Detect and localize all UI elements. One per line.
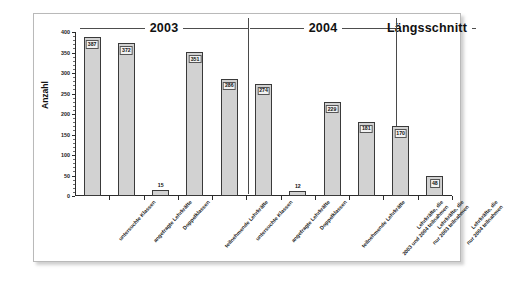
bar-value-label: 229 (326, 105, 339, 113)
bar: 181 (358, 122, 375, 196)
y-tick-label: 250 (61, 91, 70, 97)
y-minor-tick (73, 61, 75, 62)
y-tick-mark (72, 53, 75, 54)
y-minor-tick (73, 126, 75, 127)
x-tick-mark (452, 196, 453, 200)
plot-area: 050100150200250300350400 387372153512862… (75, 32, 452, 196)
bar-value-label: 12 (295, 184, 301, 189)
y-minor-tick (73, 48, 75, 49)
bar-value-label: 15 (158, 183, 164, 188)
y-minor-tick (73, 163, 75, 164)
group-rule-right (183, 28, 248, 29)
category-label-line: teilnehmende Lehrkräfte (360, 199, 406, 249)
y-tick-mark (72, 114, 75, 115)
y-tick-label: 350 (61, 50, 70, 56)
y-tick-label: 200 (61, 111, 70, 117)
y-tick-mark (72, 73, 75, 74)
bar-value-label: 48 (430, 179, 440, 187)
x-axis-category-labels: untersuchte Klassenangefragte Lehrkräfte… (75, 196, 452, 262)
bar: 372 (118, 43, 135, 196)
bar-value-label: 170 (394, 129, 407, 137)
y-minor-tick (73, 151, 75, 152)
y-tick-mark (72, 155, 75, 156)
category-label-line: teilnehmende Lehrkräfte (223, 199, 269, 249)
group-rule-left (250, 28, 304, 29)
bar-value-label: 351 (189, 55, 202, 63)
y-tick-mark (72, 135, 75, 136)
category-label-line: untersuchte Klassen (117, 199, 156, 242)
bar-value-label: 372 (120, 46, 133, 54)
y-tick-label: 300 (61, 70, 70, 76)
y-minor-tick (73, 44, 75, 45)
y-tick-label: 100 (61, 152, 70, 158)
group-rule-right (472, 28, 476, 29)
y-tick-label: 150 (61, 132, 70, 138)
group-rule-left (80, 28, 145, 29)
y-tick-label: 400 (61, 29, 70, 35)
y-minor-tick (73, 98, 75, 99)
y-minor-tick (73, 77, 75, 78)
chart-figure: 2003 2004 Längsschnitt Anzahl 0501001502… (33, 13, 461, 262)
y-minor-tick (73, 184, 75, 185)
y-minor-tick (73, 192, 75, 193)
bar: 274 (255, 84, 272, 196)
y-minor-tick (73, 143, 75, 144)
y-minor-tick (73, 118, 75, 119)
y-minor-tick (73, 180, 75, 181)
y-minor-tick (73, 147, 75, 148)
bar-value-label: 387 (86, 40, 99, 48)
y-minor-tick (73, 69, 75, 70)
y-tick-mark (72, 176, 75, 177)
y-minor-tick (73, 122, 75, 123)
y-minor-tick (73, 159, 75, 160)
y-tick-mark (72, 94, 75, 95)
y-minor-tick (73, 188, 75, 189)
y-minor-tick (73, 85, 75, 86)
category-label: untersuchte Klassen (117, 199, 157, 243)
bar-value-label: 286 (223, 82, 236, 90)
bar-value-label: 274 (257, 87, 270, 95)
y-tick-label: 50 (64, 173, 70, 179)
y-minor-tick (73, 57, 75, 58)
y-tick-mark (72, 32, 75, 33)
y-tick-label: 0 (67, 193, 70, 199)
y-minor-tick (73, 110, 75, 111)
y-minor-tick (73, 65, 75, 66)
bar-value-label: 181 (360, 125, 373, 133)
y-axis-label: Anzahl (40, 81, 50, 109)
bar: 229 (324, 102, 341, 196)
y-minor-tick (73, 81, 75, 82)
bar: 170 (392, 126, 409, 196)
bar: 48 (426, 176, 443, 196)
y-minor-tick (73, 36, 75, 37)
group-rule-left (378, 28, 382, 29)
category-label: teilnehmende Lehrkräfte (223, 199, 269, 250)
y-minor-tick (73, 171, 75, 172)
y-minor-tick (73, 130, 75, 131)
y-minor-tick (73, 102, 75, 103)
bar: 286 (221, 79, 238, 196)
bar: 351 (186, 52, 203, 196)
y-minor-tick (73, 40, 75, 41)
y-minor-tick (73, 106, 75, 107)
y-minor-tick (73, 89, 75, 90)
bar: 387 (84, 37, 101, 196)
y-minor-tick (73, 167, 75, 168)
y-minor-tick (73, 139, 75, 140)
